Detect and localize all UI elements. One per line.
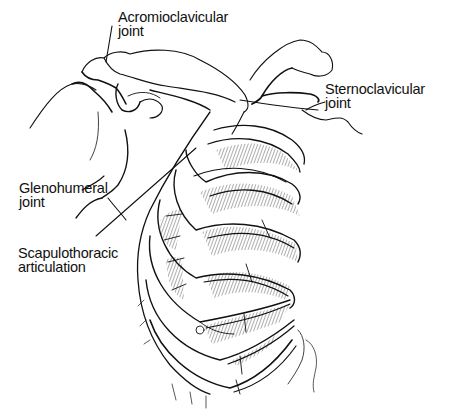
leader-acromioclavicular	[106, 26, 112, 62]
label-sternoclavicular-line2: joint	[325, 96, 425, 110]
label-acromioclavicular-line2: joint	[118, 24, 228, 38]
label-glenohumeral-line2: joint	[19, 195, 108, 209]
label-scapulothoracic-line2: articulation	[18, 260, 118, 274]
leader-sternoclavicular	[306, 102, 325, 110]
acromion-clavicle	[82, 50, 248, 118]
label-scapulothoracic-articulation: Scapulothoracic articulation	[18, 246, 118, 274]
label-glenohumeral-line1: Glenohumeral	[19, 181, 108, 195]
label-sternoclavicular-line1: Sternoclavicular	[325, 82, 425, 96]
label-scapulothoracic-line1: Scapulothoracic	[18, 246, 118, 260]
rib-cage	[146, 125, 305, 394]
label-acromioclavicular-joint: Acromioclavicular joint	[118, 10, 228, 38]
label-sternoclavicular-joint: Sternoclavicular joint	[325, 82, 425, 110]
label-acromioclavicular-line1: Acromioclavicular	[118, 10, 228, 24]
shoulder-joints-diagram: Acromioclavicular joint Sternoclavicular…	[0, 0, 458, 412]
label-glenohumeral-joint: Glenohumeral joint	[19, 181, 108, 209]
